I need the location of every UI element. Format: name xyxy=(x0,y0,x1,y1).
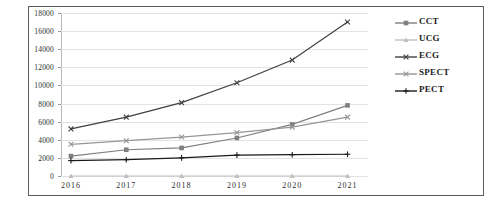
y-axis-tick-label: 0 xyxy=(24,172,54,181)
y-axis-tick-label: 10000 xyxy=(24,81,54,90)
legend-marker-icon xyxy=(393,66,419,78)
series-line-pect xyxy=(71,154,348,160)
data-point-marker-plus xyxy=(68,158,74,164)
data-point-marker-plus xyxy=(179,155,185,161)
data-point-marker-x xyxy=(345,20,350,25)
y-axis-tick-label: 16000 xyxy=(24,27,54,36)
legend-label: UCG xyxy=(419,33,440,43)
legend-label: CCT xyxy=(419,16,439,26)
data-point-marker-square xyxy=(179,146,184,151)
data-point-marker-square xyxy=(124,147,129,152)
data-point-marker-plus xyxy=(234,152,240,158)
legend-label: PECT xyxy=(419,84,444,94)
data-point-marker-plus xyxy=(289,152,295,158)
y-axis-tick-label: 8000 xyxy=(24,99,54,108)
legend-marker-icon xyxy=(393,32,419,44)
legend-marker-icon xyxy=(393,49,419,61)
data-point-marker-square xyxy=(235,136,240,141)
legend-label: ECG xyxy=(419,50,439,60)
y-axis-tick-label: 6000 xyxy=(24,117,54,126)
legend-marker-icon xyxy=(393,83,419,95)
x-axis-tick-label: 2020 xyxy=(282,181,302,190)
data-point-marker-plus xyxy=(345,151,351,157)
x-axis-tick-label: 2019 xyxy=(227,181,247,190)
data-point-marker-square xyxy=(69,154,74,159)
y-axis-tick-label: 12000 xyxy=(24,63,54,72)
data-point-marker-square xyxy=(404,20,409,25)
x-axis-tick-label: 2021 xyxy=(338,181,358,190)
legend-item-ucg[interactable]: UCG xyxy=(393,29,479,46)
x-axis-tick-label: 2018 xyxy=(172,181,192,190)
legend-item-spect[interactable]: SPECT xyxy=(393,63,479,80)
data-point-marker-plus xyxy=(403,88,409,94)
x-axis-tick-label: 2017 xyxy=(116,181,136,190)
chart-legend: CCTUCGECGSPECTPECT xyxy=(393,12,479,97)
legend-marker-icon xyxy=(393,15,419,27)
chart-figure: 0200040006000800010000120001400016000180… xyxy=(0,0,493,205)
legend-item-ecg[interactable]: ECG xyxy=(393,46,479,63)
y-axis-tick-label: 2000 xyxy=(24,153,54,162)
series-line-cct xyxy=(71,105,348,156)
y-axis-tick-label: 4000 xyxy=(24,135,54,144)
data-point-marker-x xyxy=(290,58,295,63)
chart-plot-lines xyxy=(61,13,368,176)
y-axis-tick-label: 18000 xyxy=(24,9,54,18)
series-line-spect xyxy=(71,117,348,144)
legend-item-cct[interactable]: CCT xyxy=(393,12,479,29)
y-axis-tick-label: 14000 xyxy=(24,45,54,54)
series-line-ecg xyxy=(71,22,348,129)
data-point-marker-square xyxy=(345,103,350,108)
x-axis-tick-label: 2016 xyxy=(61,181,81,190)
legend-item-pect[interactable]: PECT xyxy=(393,80,479,97)
data-point-marker-plus xyxy=(123,157,129,163)
legend-label: SPECT xyxy=(419,67,450,77)
